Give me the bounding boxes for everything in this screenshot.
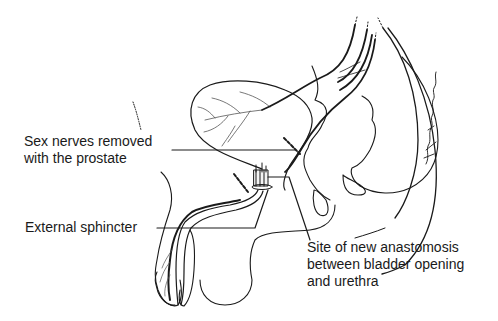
bladder-vessels	[198, 92, 270, 146]
nerve-tips-dotted	[355, 17, 383, 40]
nerve-cut-lower	[234, 174, 248, 192]
penis-outline	[155, 172, 175, 305]
leader-sphincter	[157, 190, 268, 228]
label-external-sphincter: External sphincter	[25, 219, 137, 236]
bladder-outline	[191, 81, 312, 190]
pubic-bone-shape	[313, 190, 328, 216]
penile-nerve	[169, 200, 241, 300]
label-sex-nerves: Sex nerves removed with the prostate	[24, 133, 152, 167]
label-external-sphincter-line1: External sphincter	[25, 219, 137, 236]
urethra	[176, 190, 263, 305]
label-anastomosis-site: Site of new anastomosis between bladder …	[307, 239, 464, 290]
spine-curve-inner	[383, 28, 418, 218]
rectum-outline	[304, 66, 330, 200]
label-sex-nerves-line2: with the prostate	[24, 150, 152, 167]
nerve-cut-upper	[284, 138, 300, 154]
label-anastomosis-site-line3: and urethra	[307, 273, 464, 290]
ischium-shape	[343, 175, 365, 195]
label-sex-nerves-line1: Sex nerves removed	[24, 133, 152, 150]
label-anastomosis-site-line2: between bladder opening	[307, 256, 464, 273]
label-anastomosis-site-line1: Site of new anastomosis	[307, 239, 464, 256]
perineum-outline	[355, 228, 385, 238]
artist-signature	[422, 70, 440, 170]
anatomy-diagram: Sex nerves removed with the prostate Ext…	[0, 0, 498, 321]
hip-outline	[133, 102, 141, 130]
anastomosis-site	[252, 163, 272, 190]
